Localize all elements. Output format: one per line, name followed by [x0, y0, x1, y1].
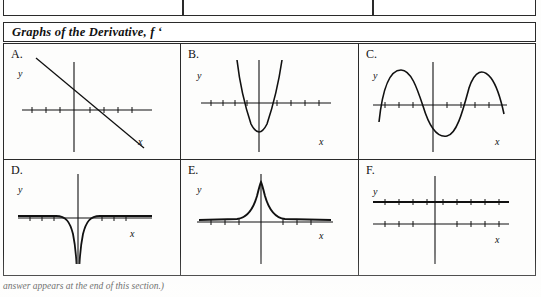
graph-label-e: E.: [188, 163, 198, 178]
x-axis-label-a: x: [138, 136, 142, 147]
graph-cell-d: D. y x: [4, 160, 181, 275]
top-table-cell-1: [3, 0, 183, 16]
y-axis-label-a: y: [18, 68, 22, 79]
graph-cell-e: E. y x: [181, 160, 359, 275]
graph-plot-c: [359, 44, 535, 160]
y-axis-label-e: y: [197, 184, 201, 195]
y-axis-label-f: y: [373, 186, 377, 197]
top-table-cell-3: [373, 0, 536, 16]
graph-label-f: F.: [366, 163, 375, 178]
graph-cell-a: A. y x: [4, 44, 181, 160]
graph-label-c: C.: [366, 47, 377, 62]
x-axis-label-f: x: [495, 234, 499, 245]
x-axis-label-c: x: [495, 136, 499, 147]
top-table-cell-2: [183, 0, 373, 16]
graph-grid: A. y x B. y x: [3, 43, 536, 276]
graph-cell-c: C. y x: [359, 44, 535, 160]
footer-note: answer appears at the end of this sectio…: [3, 281, 164, 291]
graph-label-a: A.: [11, 47, 23, 62]
x-axis-label-b: x: [319, 136, 323, 147]
y-axis-label-d: y: [18, 184, 22, 195]
top-table-fragment: [3, 0, 536, 20]
section-heading-text: Graphs of the Derivative, f ‘: [12, 25, 162, 40]
graph-plot-a: [4, 44, 181, 160]
section-heading-bar: Graphs of the Derivative, f ‘: [3, 22, 536, 42]
graph-label-d: D.: [11, 163, 23, 178]
graph-cell-f: F. y x: [359, 160, 535, 275]
x-axis-label-e: x: [319, 230, 323, 241]
graph-cell-b: B. y x: [181, 44, 359, 160]
graph-plot-d: [4, 160, 181, 275]
graph-plot-f: [359, 160, 535, 275]
y-axis-label-b: y: [197, 70, 201, 81]
graph-label-b: B.: [188, 47, 199, 62]
graph-plot-e: [181, 160, 359, 275]
y-axis-label-c: y: [373, 70, 377, 81]
graph-plot-b: [181, 44, 359, 160]
x-axis-label-d: x: [130, 228, 134, 239]
worksheet-page: Graphs of the Derivative, f ‘ A. y x: [0, 0, 541, 297]
